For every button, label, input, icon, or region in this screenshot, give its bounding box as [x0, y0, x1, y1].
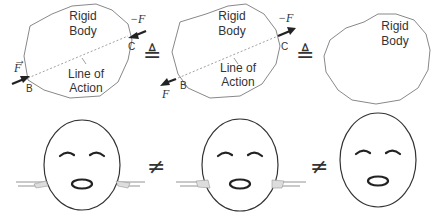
line-of-action-label-1: Line of	[68, 67, 105, 81]
face-outline	[340, 113, 416, 207]
equivalence-symbol-1: ≜	[143, 42, 161, 67]
line-of-action-label-2: Action	[221, 75, 254, 89]
force-arrow-f	[168, 79, 176, 82]
line-of-action-label-2: Action	[69, 81, 102, 95]
rigid-body-label-2: Body	[218, 24, 245, 38]
panel-3-plain: Rigid Body	[324, 14, 430, 104]
face-outline	[202, 119, 278, 211]
rigid-body-label-2: Body	[69, 24, 96, 38]
inequality-symbol-1: ≠	[147, 154, 165, 179]
face-1	[16, 120, 145, 210]
force-arrow-f-head	[160, 78, 170, 86]
point-b-label: B	[180, 80, 187, 91]
right-hand-pulling	[272, 180, 306, 188]
rigid-body-label-1: Rigid	[381, 19, 408, 33]
point-b-label: B	[26, 83, 33, 94]
force-label-neg-f: −F	[130, 12, 146, 26]
force-label-f: F	[161, 87, 170, 101]
left-hand-pulling	[176, 180, 210, 188]
face-outline	[44, 120, 120, 210]
force-label-neg-f: −F	[278, 11, 294, 25]
rigid-body-label-2: Body	[381, 34, 408, 48]
panel-2-pull: Rigid Body Line of Action F B −F C	[160, 4, 296, 101]
vector-arrow-accent: →	[14, 53, 26, 67]
right-hand-pushing	[116, 181, 145, 188]
rigid-body-shape	[324, 14, 430, 104]
face-3	[340, 113, 416, 207]
force-arrow-neg-f	[278, 31, 290, 36]
point-c-label: C	[281, 41, 288, 52]
left-hand-pushing	[16, 181, 48, 188]
line-of-action-label-1: Line of	[220, 61, 257, 75]
inequality-symbol-2: ≠	[310, 154, 328, 179]
rigid-body-label-1: Rigid	[218, 9, 245, 23]
diagram-canvas: Rigid Body Line of Action F → B −F C ≜ R…	[0, 0, 441, 220]
point-c-label: C	[128, 41, 135, 52]
face-2	[176, 119, 306, 211]
panel-1-push: Rigid Body Line of Action F → B −F C	[12, 4, 146, 98]
rigid-body-label-1: Rigid	[69, 9, 96, 23]
equivalence-symbol-2: ≜	[296, 42, 314, 67]
